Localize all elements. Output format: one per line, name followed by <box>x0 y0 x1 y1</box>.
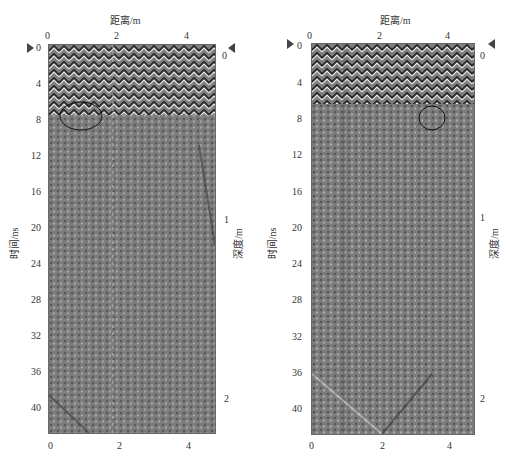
top-axis-label: 距离/m <box>110 12 141 27</box>
bottom-tick-label: 4 <box>186 440 191 451</box>
marker-triangle-icon <box>488 39 495 49</box>
right-tick-label: 0 <box>480 50 485 61</box>
top-axis-label: 距离/m <box>380 12 411 27</box>
right-axis-label: 深度/m <box>230 228 245 259</box>
left-tick-label: 4 <box>36 78 41 89</box>
left-tick-label: 20 <box>292 222 302 233</box>
top-tick-label: 2 <box>377 30 382 41</box>
left-tick-label: 32 <box>31 330 41 341</box>
left-tick-label: 40 <box>31 402 41 413</box>
bottom-tick-label: 0 <box>48 440 53 451</box>
left-tick-label: 24 <box>31 258 41 269</box>
left-tick-label: 0 <box>297 40 302 51</box>
radargram-image <box>48 44 216 434</box>
right-tick-label: 1 <box>480 212 485 223</box>
right-tick-label: 2 <box>224 393 229 404</box>
marker-triangle-icon <box>287 39 294 49</box>
right-tick-label: 2 <box>480 393 485 404</box>
radargram-panel-left: 距离/m 0 2 4 <box>0 0 254 462</box>
left-tick-label: 12 <box>31 150 41 161</box>
radargram-image <box>311 43 475 435</box>
top-tick-label: 4 <box>445 30 450 41</box>
top-tick-label: 0 <box>45 30 50 41</box>
left-tick-label: 32 <box>292 331 302 342</box>
left-tick-label: 20 <box>31 222 41 233</box>
marker-triangle-icon <box>27 43 34 53</box>
left-tick-label: 16 <box>292 186 302 197</box>
left-tick-label: 36 <box>292 367 302 378</box>
marker-triangle-icon <box>228 43 235 53</box>
top-tick-label: 2 <box>114 30 119 41</box>
top-tick-label: 0 <box>307 30 312 41</box>
left-tick-label: 12 <box>292 149 302 160</box>
left-tick-label: 4 <box>297 77 302 88</box>
bottom-tick-label: 2 <box>117 440 122 451</box>
left-axis-label: 时间/ns <box>6 228 21 260</box>
left-tick-label: 0 <box>36 42 41 53</box>
left-tick-label: 40 <box>292 403 302 414</box>
right-axis-label: 深度/m <box>486 228 501 259</box>
left-tick-label: 28 <box>31 294 41 305</box>
bottom-tick-label: 2 <box>380 440 385 451</box>
top-tick-label: 4 <box>184 30 189 41</box>
right-tick-label: 0 <box>222 50 227 61</box>
left-tick-label: 16 <box>31 186 41 197</box>
left-tick-label: 24 <box>292 258 302 269</box>
bottom-tick-label: 4 <box>447 440 452 451</box>
left-tick-label: 8 <box>36 114 41 125</box>
radargram-panel-right: 距离/m 0 2 4 <box>254 0 508 462</box>
left-tick-label: 8 <box>297 113 302 124</box>
left-tick-label: 28 <box>292 294 302 305</box>
left-axis-label: 时间/ns <box>264 228 279 260</box>
right-tick-label: 1 <box>224 214 229 225</box>
left-tick-label: 36 <box>31 366 41 377</box>
bottom-tick-label: 0 <box>309 440 314 451</box>
